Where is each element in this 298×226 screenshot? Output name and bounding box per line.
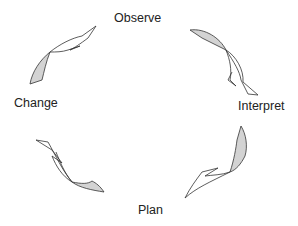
stage-label-interpret: Interpret <box>238 100 285 113</box>
arrow-observe-to-interpret <box>190 30 258 95</box>
arrow-change-to-observe <box>30 26 96 84</box>
stage-label-change: Change <box>14 97 58 110</box>
cycle-diagram: Observe Interpret Plan Change <box>0 0 298 226</box>
stage-label-plan: Plan <box>138 204 163 217</box>
arrow-plan-to-change <box>36 140 104 192</box>
stage-label-observe: Observe <box>114 12 161 25</box>
cycle-arrows <box>0 0 298 226</box>
arrow-interpret-to-plan <box>185 126 246 198</box>
